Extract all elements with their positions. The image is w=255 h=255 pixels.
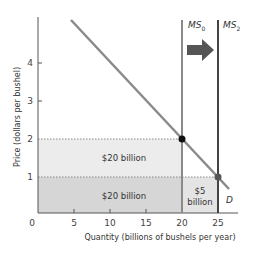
market-supply-demand-chart: $20 billion $20 billion $5 billion 4 3 2… <box>0 0 255 255</box>
x-axis-title: Quantity (billions of bushels per year) <box>84 233 235 242</box>
x-tick-label-20: 20 <box>176 218 188 228</box>
y-tick-label-4: 4 <box>27 58 33 68</box>
area-lower-label: $20 billion <box>102 191 146 201</box>
y-tick-label-2: 2 <box>27 134 33 144</box>
x-tick-label-5: 5 <box>71 218 77 228</box>
x-tick-label-25: 25 <box>212 218 223 228</box>
shift-arrow-icon <box>187 39 214 61</box>
y-tick-label-1: 1 <box>27 172 33 182</box>
equilibrium-point-ms2 <box>215 174 222 181</box>
x-tick-label-15: 15 <box>140 218 151 228</box>
equilibrium-point-ms0 <box>179 136 186 143</box>
y-axis-title: Price (dollars per bushel) <box>13 67 22 167</box>
ms2-label: MS2 <box>223 20 240 32</box>
demand-label: D <box>226 195 233 205</box>
area-right-label-line1: $5 <box>195 186 206 196</box>
ms0-label: MS0 <box>188 20 205 32</box>
x-tick-label-10: 10 <box>104 218 116 228</box>
area-right-label-line2: billion <box>187 197 212 207</box>
y-tick-label-3: 3 <box>27 96 33 106</box>
area-upper-label: $20 billion <box>102 153 146 163</box>
x-tick-label-0: 0 <box>29 218 35 228</box>
